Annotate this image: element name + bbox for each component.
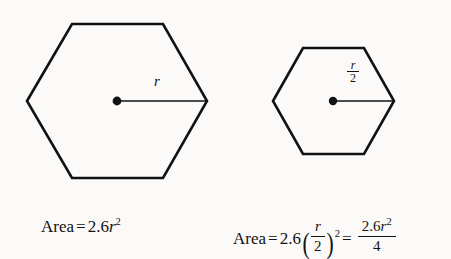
small-hexagon-area-caption: Area=2.6(r2)2= 2.6r24 <box>233 216 396 255</box>
small-caption-result-numerator: 2.6r2 <box>358 216 396 237</box>
small-caption-equals-second: = <box>340 229 354 248</box>
small-radius-denominator: 2 <box>347 72 359 84</box>
small-caption-inner-fraction: r2 <box>311 218 325 255</box>
small-hexagon-center-dot <box>329 97 337 105</box>
small-caption-result-exponent: 2 <box>386 216 391 227</box>
large-caption-coefficient: 2.6 <box>88 217 109 236</box>
large-hexagon-center-dot <box>113 97 122 106</box>
large-caption-exponent: 2 <box>116 216 121 227</box>
small-caption-inner-numerator: r <box>311 218 325 237</box>
small-caption-equals-first: = <box>266 229 280 248</box>
small-hexagon-radius-label: r 2 <box>347 59 359 84</box>
small-caption-coefficient: 2.6 <box>280 229 301 248</box>
large-caption-area-word: Area <box>41 217 74 236</box>
small-radius-fraction: r 2 <box>347 59 359 84</box>
small-caption-area-word: Area <box>233 229 266 248</box>
small-caption-paren-group: (r2) <box>301 218 335 255</box>
small-caption-result-fraction: 2.6r24 <box>358 216 396 255</box>
large-hexagon-radius-label: r <box>154 74 160 89</box>
large-hexagon-area-caption: Area=2.6r2 <box>41 216 121 236</box>
large-caption-variable: r <box>109 217 116 236</box>
large-caption-equals: = <box>74 217 88 236</box>
small-caption-inner-denominator: 2 <box>311 237 325 255</box>
small-caption-result-denominator: 4 <box>358 237 396 255</box>
small-radius-numerator: r <box>347 59 359 72</box>
small-caption-result-coefficient: 2.6 <box>362 218 381 234</box>
